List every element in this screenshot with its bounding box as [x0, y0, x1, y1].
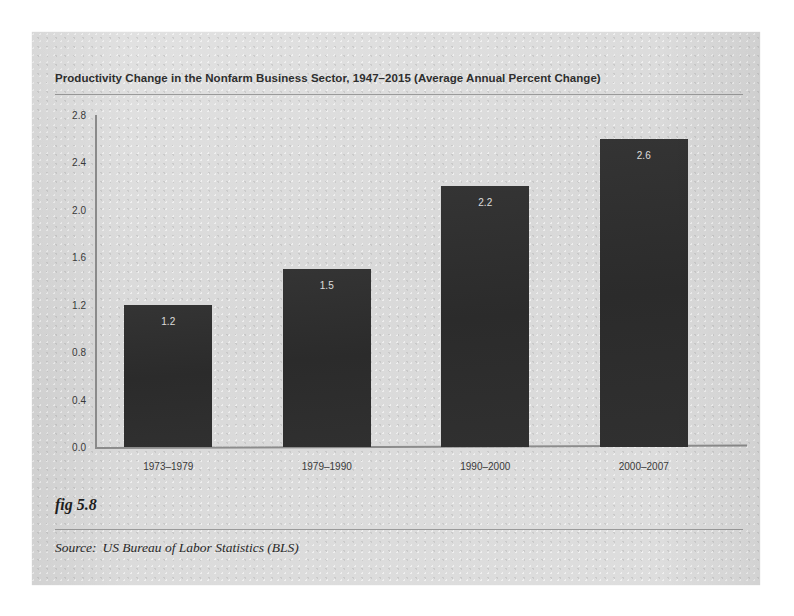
- figure-number: fig 5.8: [55, 496, 97, 514]
- x-axis-category-label: 2000–2007: [619, 461, 669, 472]
- y-axis-tick-label: 0.8: [72, 347, 86, 358]
- bar: 1.21973–1979: [124, 305, 212, 447]
- y-axis-tick-label: 0.0: [72, 442, 86, 453]
- y-axis-tick-label: 2.0: [72, 204, 86, 215]
- figure-divider: [55, 529, 743, 530]
- plot-area: 0.00.40.81.21.62.02.42.8 1.21973–19791.5…: [95, 115, 729, 447]
- x-axis-category-label: 1979–1990: [302, 461, 352, 472]
- bar: 2.62000–2007: [600, 139, 688, 447]
- bar-value-label: 1.2: [161, 316, 175, 327]
- source-label: Source:: [55, 540, 96, 555]
- x-axis-category-label: 1973–1979: [143, 461, 193, 472]
- bar-value-label: 1.5: [320, 280, 334, 291]
- bar-value-label: 2.6: [637, 150, 651, 161]
- bar: 1.51979–1990: [283, 269, 371, 447]
- x-axis-category-label: 1990–2000: [460, 461, 510, 472]
- title-divider: [55, 94, 743, 95]
- chart-title: Productivity Change in the Nonfarm Busin…: [55, 72, 745, 84]
- source-text: US Bureau of Labor Statistics (BLS): [102, 540, 298, 555]
- y-axis-tick-label: 2.4: [72, 157, 86, 168]
- bar-value-label: 2.2: [478, 197, 492, 208]
- y-axis-tick-label: 2.8: [72, 110, 86, 121]
- y-axis-tick-label: 0.4: [72, 394, 86, 405]
- bar: 2.21990–2000: [441, 186, 529, 447]
- y-axis-tick-label: 1.2: [72, 299, 86, 310]
- y-axis-tick-label: 1.6: [72, 252, 86, 263]
- scanned-page-sheet: Productivity Change in the Nonfarm Busin…: [32, 32, 760, 585]
- source-note: Source:US Bureau of Labor Statistics (BL…: [55, 540, 299, 556]
